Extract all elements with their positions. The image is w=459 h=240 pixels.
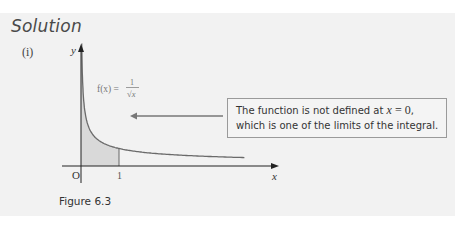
y-axis-arrowhead	[78, 44, 84, 52]
x-axis-arrowhead	[271, 163, 279, 169]
y-axis-label: y	[70, 44, 76, 56]
callout-arrowhead	[130, 113, 137, 120]
origin-label: O	[72, 169, 80, 181]
x-axis-label: x	[271, 170, 277, 182]
callout-line-1: The function is not defined at x = 0,	[236, 103, 446, 118]
function-label-denominator: √x	[127, 89, 136, 99]
function-label: f(x) = 1 √x	[97, 78, 139, 99]
callout-comma: ,	[411, 105, 414, 116]
function-label-numerator: 1	[130, 78, 134, 87]
function-label-lhs: f(x) =	[97, 84, 119, 95]
function-curve	[82, 44, 245, 158]
callout-box: The function is not defined at x = 0, wh…	[227, 98, 447, 138]
callout-line-2: which is one of the limits of the integr…	[236, 118, 446, 133]
callout-equals: =	[392, 103, 405, 117]
callout-text: The function is not defined at	[236, 105, 387, 116]
x-tick-label: 1	[117, 170, 122, 181]
figure-caption: Figure 6.3	[59, 195, 111, 207]
